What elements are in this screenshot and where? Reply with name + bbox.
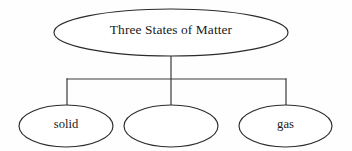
child-node-ellipse-blank[interactable] <box>124 105 218 147</box>
child-node-label-solid: solid <box>19 117 113 132</box>
child-node-label-gas: gas <box>239 117 332 132</box>
diagram-canvas: Three States of Matter solid gas <box>0 0 352 151</box>
root-node-label: Three States of Matter <box>54 22 288 38</box>
